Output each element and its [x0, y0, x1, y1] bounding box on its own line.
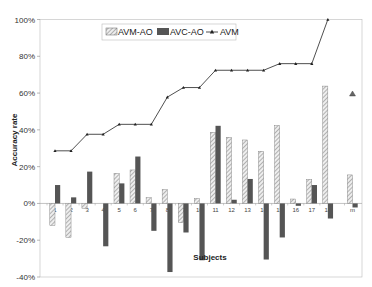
bar-avm-ao	[226, 137, 231, 203]
bar-avm-ao	[50, 203, 55, 225]
legend-swatch-avm-ao	[106, 28, 117, 35]
bar-avm-ao	[178, 203, 183, 222]
bar-avc-ao	[232, 200, 237, 204]
bars	[50, 86, 358, 272]
bar-avc-ao	[199, 203, 204, 260]
x-tick-label: m	[350, 207, 355, 213]
y-tick-label: 20%	[19, 163, 35, 172]
y-tick-label: 40%	[19, 126, 35, 135]
x-tick-label: 13	[244, 207, 251, 213]
mean-triangle-marker-icon	[350, 91, 356, 96]
bar-avc-ao	[87, 172, 92, 204]
legend-label-avc-ao: AVC-AO	[170, 27, 204, 37]
bar-avc-ao	[248, 179, 253, 203]
x-axis-title: Subjects	[193, 253, 227, 262]
bar-avm-ao	[347, 175, 352, 204]
bar-avc-ao	[328, 203, 333, 218]
bar-avm-ao	[275, 125, 280, 203]
x-tick-label: 16	[292, 207, 299, 213]
bar-avc-ao	[312, 185, 317, 203]
y-tick-label: -40%	[16, 273, 35, 282]
legend-label-avm: AVM	[220, 27, 239, 37]
bar-avc-ao	[151, 203, 156, 230]
bar-avc-ao	[280, 203, 285, 237]
y-tick-label: 80%	[19, 52, 35, 61]
bar-avm-ao	[242, 140, 247, 203]
x-tick-label: 12	[228, 207, 235, 213]
triangle-marker-icon	[166, 96, 169, 99]
legend-swatch-avc-ao	[157, 28, 169, 35]
y-tick-label: 100%	[15, 16, 35, 25]
y-axis-title: Accuracy rate	[10, 113, 19, 166]
bar-avm-ao	[323, 86, 328, 203]
bar-avm-ao	[130, 170, 135, 203]
bar-avc-ao	[216, 126, 221, 204]
bar-avm-ao	[307, 179, 312, 203]
y-tick-label: 0%	[23, 199, 35, 208]
bar-avc-ao	[183, 203, 188, 232]
bar-avc-ao	[71, 197, 76, 203]
bar-avc-ao	[264, 203, 269, 259]
x-tick-label: 5	[118, 207, 122, 213]
bar-avc-ao	[353, 203, 358, 207]
y-tick-label: -20%	[16, 236, 35, 245]
bar-avm-ao	[82, 203, 87, 208]
x-tick-label: 6	[134, 207, 138, 213]
bar-avc-ao	[296, 203, 301, 205]
bar-avm-ao	[146, 198, 151, 204]
bar-avm-ao	[114, 173, 119, 203]
y-tick-label: 60%	[19, 89, 35, 98]
x-tick-label: 11	[212, 207, 219, 213]
bar-avm-ao	[162, 190, 167, 204]
legend-label-avm-ao: AVM-AO	[118, 27, 153, 37]
bar-avc-ao	[119, 183, 124, 203]
bar-avc-ao	[135, 157, 140, 204]
bar-avm-ao	[194, 198, 199, 203]
bar-avc-ao	[167, 203, 172, 272]
bar-avm-ao	[291, 199, 296, 203]
bar-avm-ao	[210, 132, 215, 203]
bar-avm-ao	[258, 151, 263, 203]
bar-avc-ao	[55, 185, 60, 203]
bar-avm-ao	[66, 203, 71, 237]
chart: -40%-20%0%20%40%60%80%100% 1234567891011…	[0, 0, 372, 287]
legend: AVM-AO AVC-AO AVM	[102, 24, 239, 40]
x-tick-label: 17	[308, 207, 315, 213]
bar-avc-ao	[103, 203, 108, 246]
